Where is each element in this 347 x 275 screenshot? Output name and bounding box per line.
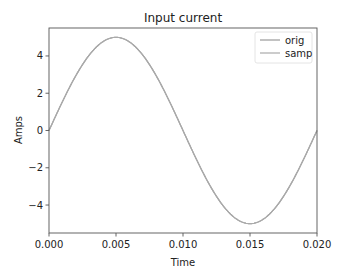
x-tick-label: 0.015 xyxy=(236,239,265,250)
x-axis-ticks: 0.0000.0050.0100.0150.020 xyxy=(35,233,332,250)
y-tick-label: 2 xyxy=(37,88,43,99)
y-tick-label: −4 xyxy=(28,200,43,211)
series-line-samp xyxy=(49,37,317,223)
y-axis-ticks: 420−2−4 xyxy=(28,50,49,210)
x-tick-label: 0.005 xyxy=(102,239,131,250)
chart: Input current 0.0000.0050.0100.0150.020 … xyxy=(0,0,347,275)
y-tick-label: 0 xyxy=(37,125,43,136)
y-tick-label: 4 xyxy=(37,50,43,61)
legend-label: samp xyxy=(285,48,312,59)
x-tick-label: 0.000 xyxy=(35,239,64,250)
x-axis-label: Time xyxy=(170,257,195,268)
y-tick-label: −2 xyxy=(28,162,43,173)
plot-lines xyxy=(49,37,317,223)
chart-title: Input current xyxy=(144,11,222,25)
legend: origsamp xyxy=(255,32,312,63)
x-tick-label: 0.020 xyxy=(303,239,332,250)
y-axis-label: Amps xyxy=(13,116,24,144)
x-tick-label: 0.010 xyxy=(169,239,198,250)
legend-label: orig xyxy=(285,35,304,46)
